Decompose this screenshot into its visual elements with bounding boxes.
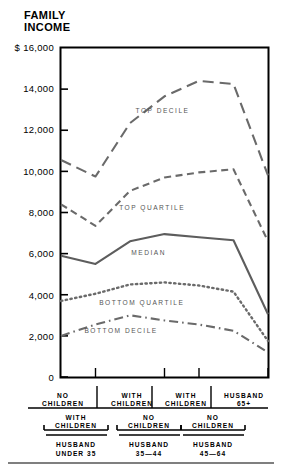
series-label-top-quartile: TOP QUARTILE (119, 204, 185, 211)
xgroup-label-2-line2: CHILDREN (182, 422, 244, 431)
series-line-bottom-decile (61, 315, 268, 352)
xage-label-1-line2: 35—44 (118, 449, 180, 458)
xcat-label-0-line2: CHILDREN (32, 400, 94, 409)
xgroup-label-1-line2: CHILDREN (118, 422, 180, 431)
xage-label-0-line2: UNDER 35 (45, 449, 107, 458)
x-axis-ticks (96, 368, 269, 377)
xage-label-0-line1: HUSBAND (45, 440, 107, 449)
xcat-label-2-line2: CHILDREN (155, 400, 217, 409)
xcat-label-1-line2: CHILDREN (101, 400, 163, 409)
xage-label-2-line2: 45—64 (182, 449, 244, 458)
xage-label-2-line1: HUSBAND (182, 440, 244, 449)
series-line-top-decile (61, 81, 268, 177)
series-label-bottom-quartile: BOTTOM QUARTILE (99, 299, 184, 306)
series-label-bottom-decile: BOTTOM DECILE (84, 327, 157, 334)
chart-page: FAMILY INCOME $ 16,000 14,000 12,000 10,… (0, 0, 282, 464)
series-group (61, 81, 268, 352)
xgroup-label-0-line2: CHILDREN (45, 422, 107, 431)
xcat-label-3-line2: 65+ (213, 400, 275, 409)
xage-label-1-line1: HUSBAND (118, 440, 180, 449)
series-label-median: MEDIAN (131, 249, 166, 256)
series-label-top-decile: TOP DECILE (136, 107, 190, 114)
